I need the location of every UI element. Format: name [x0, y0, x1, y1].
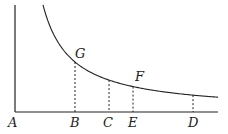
label-B: B — [69, 115, 80, 130]
label-F: F — [134, 69, 145, 84]
label-G: G — [75, 46, 85, 61]
label-A: A — [7, 115, 17, 130]
hyperbola-curve — [43, 5, 218, 97]
label-E: E — [127, 115, 138, 130]
label-D: D — [187, 115, 199, 130]
hyperbola-diagram: A B C E D G F — [0, 0, 228, 134]
label-C: C — [103, 115, 113, 130]
